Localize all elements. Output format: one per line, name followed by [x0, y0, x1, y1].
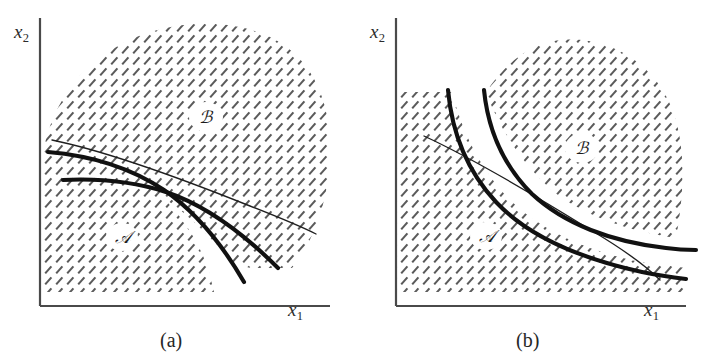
x-axis-label-sub-a: 1 — [297, 309, 303, 323]
caption-b: (b) — [516, 330, 539, 350]
x-axis-label-base-b: x — [644, 299, 653, 320]
x-axis-label-b: x1 — [644, 300, 659, 322]
y-axis-label-sub-a: 2 — [23, 31, 29, 45]
x-axis-label-base-a: x — [288, 299, 297, 320]
x-axis-label-a: x1 — [288, 300, 303, 322]
x-axis-label-sub-b: 1 — [653, 309, 659, 323]
set-label-b-b: ℬ — [575, 140, 588, 157]
y-axis-label-sub-b: 2 — [379, 31, 385, 45]
set-label-a-b: 𝒜 — [479, 228, 495, 245]
figure-container: x2 x1 ℬ 𝒜 (a) — [0, 0, 712, 363]
y-axis-label-b: x2 — [370, 22, 385, 44]
y-axis-label-base-a: x — [14, 21, 23, 42]
y-axis-label-base-b: x — [370, 21, 379, 42]
set-label-a-a: 𝒜 — [115, 229, 131, 246]
panel-b: x2 x1 ℬ 𝒜 (b) — [356, 0, 712, 363]
y-axis-label-a: x2 — [14, 22, 29, 44]
panel-a: x2 x1 ℬ 𝒜 (a) — [0, 0, 356, 363]
set-label-b-a: ℬ — [199, 109, 212, 126]
caption-a: (a) — [160, 330, 182, 350]
